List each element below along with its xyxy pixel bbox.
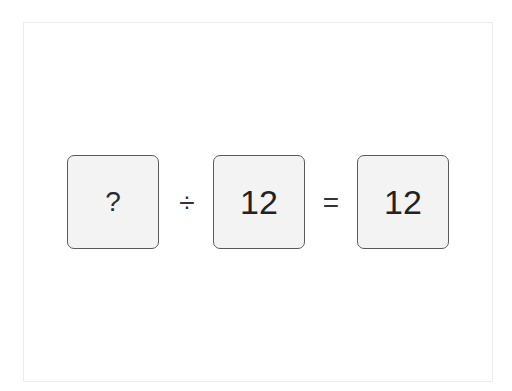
division-sign-icon: ÷ (179, 189, 194, 217)
result-tile: 12 (357, 155, 449, 249)
unknown-operand-value: ? (105, 188, 121, 216)
divisor-value: 12 (240, 185, 278, 219)
divisor-tile: 12 (213, 155, 305, 249)
division-operator: ÷ (174, 183, 200, 223)
result-value: 12 (384, 185, 422, 219)
unknown-operand-tile[interactable]: ? (67, 155, 159, 249)
equals-operator: = (318, 183, 344, 223)
equals-sign-icon: = (323, 189, 339, 217)
